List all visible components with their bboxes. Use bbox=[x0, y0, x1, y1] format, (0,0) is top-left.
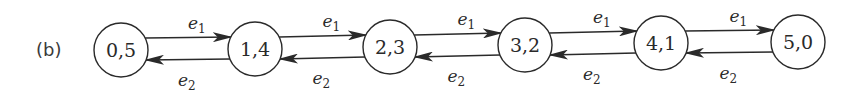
arrow-left-icon bbox=[280, 57, 365, 59]
arrow-right-icon bbox=[414, 33, 501, 35]
node-label: 2,3 bbox=[375, 36, 405, 58]
arrow-right-icon bbox=[279, 35, 366, 37]
edge-label: e1 bbox=[458, 9, 476, 32]
edge-label: e2 bbox=[313, 68, 331, 91]
edge-label: e1 bbox=[730, 6, 748, 29]
edge-n4-n3: e2 bbox=[550, 53, 636, 87]
arrow-left-icon bbox=[415, 55, 500, 57]
arrow-right-icon bbox=[145, 37, 231, 38]
state-node-0-5: 0,5 bbox=[94, 23, 148, 77]
edge-label: e1 bbox=[593, 7, 611, 30]
state-node-4-1: 4,1 bbox=[634, 16, 688, 70]
edge-n3-n2: e2 bbox=[415, 55, 500, 89]
edge-label: e2 bbox=[720, 63, 738, 86]
state-node-3-2: 3,2 bbox=[498, 18, 552, 72]
edge-n1-n2: e1 bbox=[279, 11, 366, 37]
state-node-5-0: 5,0 bbox=[771, 15, 825, 69]
arrow-right-icon bbox=[549, 31, 637, 33]
edge-n4-n5: e1 bbox=[685, 6, 774, 32]
edge-label: e2 bbox=[178, 70, 196, 93]
edge-n2-n1: e2 bbox=[280, 57, 365, 91]
node-label: 0,5 bbox=[106, 39, 136, 61]
state-node-2-3: 2,3 bbox=[363, 20, 417, 74]
arrow-left-icon bbox=[146, 59, 230, 60]
edge-label: e2 bbox=[448, 66, 466, 89]
edge-n1-n0: e2 bbox=[146, 59, 230, 93]
arrow-left-icon bbox=[550, 53, 636, 55]
edge-label: e1 bbox=[323, 11, 341, 34]
state-node-1-4: 1,4 bbox=[228, 22, 282, 76]
node-label: 5,0 bbox=[783, 31, 813, 53]
node-label: 1,4 bbox=[240, 38, 270, 60]
state-transition-diagram: (b) e1e2e1e2e1e2e1e2e1e2 0,51,42,33,24,1… bbox=[0, 0, 865, 96]
edge-n3-n4: e1 bbox=[549, 7, 637, 33]
edge-label: e1 bbox=[188, 13, 206, 36]
arrow-left-icon bbox=[686, 52, 773, 53]
panel-label: (b) bbox=[36, 39, 61, 60]
arrow-right-icon bbox=[685, 30, 774, 31]
node-label: 3,2 bbox=[510, 34, 540, 56]
node-label: 4,1 bbox=[646, 32, 676, 54]
edge-n0-n1: e1 bbox=[145, 13, 231, 39]
edge-n5-n4: e2 bbox=[686, 52, 773, 86]
edge-n2-n3: e1 bbox=[414, 9, 501, 35]
edge-label: e2 bbox=[583, 64, 601, 87]
